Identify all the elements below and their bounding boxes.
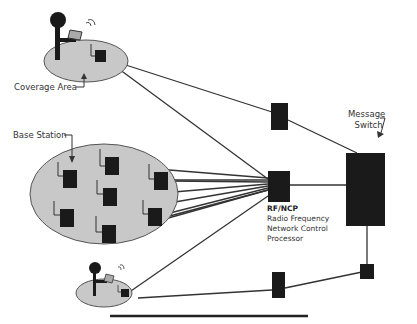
message-switch-label-line1: Message bbox=[348, 109, 385, 120]
rfncp-desc-line2: Network Control bbox=[267, 224, 329, 234]
switch-small-node bbox=[360, 264, 374, 279]
rfncp-title: RF/NCP bbox=[267, 204, 329, 214]
relay-node-top bbox=[271, 103, 288, 130]
base-station-label: Base Station bbox=[13, 130, 67, 141]
coverage-area-top bbox=[44, 12, 128, 82]
message-switch-label-line2: Switch bbox=[348, 120, 385, 131]
base-station-area bbox=[30, 135, 178, 244]
rfncp-desc-line1: Radio Frequency bbox=[267, 214, 329, 224]
rfncp-node bbox=[268, 171, 290, 202]
coverage-area-label: Coverage Area bbox=[14, 82, 77, 93]
message-switch-node bbox=[346, 153, 385, 226]
rfncp-desc-line3: Processor bbox=[267, 234, 329, 244]
relay-node-bottom bbox=[272, 272, 285, 298]
rfncp-label: RF/NCP Radio Frequency Network Control P… bbox=[267, 204, 329, 244]
message-switch-label: Message Switch bbox=[348, 109, 385, 131]
network-diagram bbox=[0, 0, 417, 324]
coverage-area-bottom bbox=[76, 262, 132, 307]
